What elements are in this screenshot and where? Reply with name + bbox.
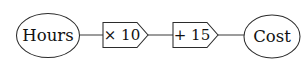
flowchart-canvas: Hours × 10 + 15 Cost bbox=[0, 0, 301, 72]
operation-node-multiply[interactable]: × 10 bbox=[103, 23, 148, 48]
operation-node-label: + 15 bbox=[174, 26, 210, 44]
output-node-cost[interactable]: Cost bbox=[244, 15, 300, 58]
operation-node-add[interactable]: + 15 bbox=[173, 23, 218, 48]
input-node-hours[interactable]: Hours bbox=[17, 14, 80, 58]
function-machine-diagram: Hours × 10 + 15 Cost bbox=[0, 0, 301, 72]
output-node-label: Cost bbox=[253, 27, 291, 46]
input-node-label: Hours bbox=[22, 26, 73, 45]
operation-node-label: × 10 bbox=[104, 26, 140, 44]
